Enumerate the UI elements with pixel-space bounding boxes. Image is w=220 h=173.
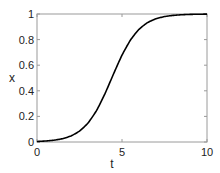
plot-frame bbox=[37, 14, 207, 142]
chart: 00.20.40.60.81 0510 t x bbox=[0, 0, 220, 173]
y-tick-label: 0.6 bbox=[19, 59, 34, 71]
x-axis-ticks: 0510 bbox=[34, 14, 213, 158]
series-line bbox=[37, 14, 207, 141]
y-tick-label: 0.2 bbox=[19, 110, 34, 122]
x-tick-label: 5 bbox=[119, 146, 125, 158]
y-tick-label: 1 bbox=[28, 8, 34, 20]
y-axis-ticks: 00.20.40.60.81 bbox=[19, 8, 207, 148]
y-tick-label: 0.4 bbox=[19, 85, 34, 97]
x-tick-label: 10 bbox=[201, 146, 213, 158]
x-tick-label: 0 bbox=[34, 146, 40, 158]
y-axis-label: x bbox=[9, 71, 15, 85]
y-tick-label: 0.8 bbox=[19, 34, 34, 46]
x-axis-label: t bbox=[110, 157, 114, 171]
